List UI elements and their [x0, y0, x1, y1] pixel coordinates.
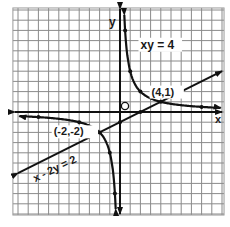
hyperbola-point: [138, 90, 142, 94]
hyperbola-point: [200, 105, 204, 109]
x-axis-label: x: [215, 113, 222, 125]
hyperbola-point: [108, 151, 112, 155]
origin-label: [121, 102, 128, 109]
line-point: [118, 120, 122, 124]
hyperbola-point: [113, 192, 117, 196]
y-axis-label: y: [109, 15, 116, 29]
hyperbola-point: [36, 115, 40, 119]
hyperbola-point: [123, 28, 127, 32]
label-xy-eq-4: xy = 4: [140, 38, 174, 52]
line-point: [138, 110, 142, 114]
hyperbola-point: [128, 69, 132, 73]
label-point-neg2-neg2: (-2,-2): [54, 125, 84, 137]
graph: yxxy = 4(4,1)(-2,-2)x - 2y = 2: [0, 0, 230, 227]
hyperbola-point: [77, 120, 81, 124]
label-point-4-1: (4,1): [152, 86, 175, 98]
